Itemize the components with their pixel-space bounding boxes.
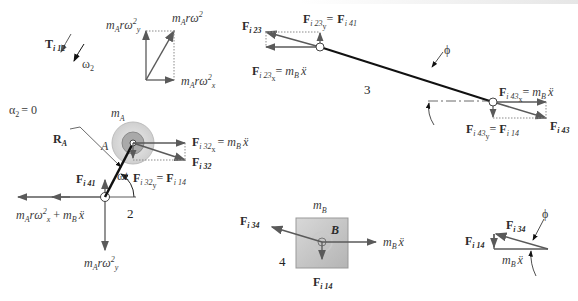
F-i32x-eq-mBx-label: Fi 32x=mBẍ xyxy=(192,135,249,154)
mArw2-arrow xyxy=(146,31,174,80)
F-i14-label: Fi 14 xyxy=(313,275,333,291)
force-i23-arrow xyxy=(266,32,320,47)
mass-B-label: mB xyxy=(313,198,327,215)
polygon-phi-arc xyxy=(531,251,536,276)
mass-A-label: mA xyxy=(111,106,125,123)
R-A-label: RA xyxy=(53,132,68,148)
polygon-mBx-label: mBẍ xyxy=(502,253,524,269)
link-4-number: 4 xyxy=(279,254,286,269)
phi-leader-arrow xyxy=(432,52,443,67)
mArw2-inset-label: mArω2 xyxy=(172,10,203,27)
polygon-F-i14-label: Fi 14 xyxy=(465,234,485,250)
phi-label: ϕ xyxy=(444,43,450,57)
torque-label: Ti 12 xyxy=(45,37,65,53)
mArw2y-label: mArω2y xyxy=(84,255,119,272)
F-i32y-eq-F-i14-label: Fi 32y=Fi 14 xyxy=(133,171,186,190)
pin-A-coupler xyxy=(316,43,324,51)
F-i23x-eq-mBx-label: Fi 23x=mBẍ xyxy=(252,64,307,83)
F-i23-label: Fi 23 xyxy=(242,19,262,35)
phi-angle-arc xyxy=(429,103,434,125)
point-A-label: A xyxy=(100,139,109,153)
F-i43y-eq-F-i14-label: Fi 43y=Fi 14 xyxy=(466,122,519,141)
alpha2-label: α2= 0 xyxy=(9,103,37,119)
F-i43-label: Fi 43 xyxy=(550,119,570,135)
polygon-F-i34-label: Fi 34 xyxy=(506,218,526,234)
force-i43-arrow xyxy=(493,102,546,118)
polygon-F-i34-side xyxy=(496,234,548,249)
omega-t-label: ωt xyxy=(117,169,129,183)
polygon-phi-leader xyxy=(533,219,544,240)
mechanism-diagram: Ti 12 ω2 α2= 0 mA A RA Fi 41 ωt Fi 32y=F… xyxy=(0,0,578,301)
F-i34-label: Fi 34 xyxy=(240,214,260,230)
link-4-slider xyxy=(272,218,376,268)
F-i23y-eq-F-i41-label: Fi 23y=Fi 41 xyxy=(303,12,357,31)
F-i32-label: Fi 32 xyxy=(192,155,212,171)
point-B-label: B xyxy=(330,223,339,237)
omega2-label: ω2 xyxy=(82,57,94,73)
pin-B-coupler xyxy=(489,98,497,106)
F-i41-label: Fi 41 xyxy=(76,172,96,188)
link-2-number: 2 xyxy=(127,206,134,221)
F-i43x-eq-mBx-label: Fi 43x=mBẍ xyxy=(499,85,554,104)
link-3-coupler xyxy=(266,32,546,125)
link-3-number: 3 xyxy=(364,82,371,97)
mBx-slider-label: mBẍ xyxy=(383,235,405,251)
mArw2x-plus-mBx-label: mArω2x+mBẍ xyxy=(16,207,85,224)
mArw2x-inset-label: mArω2x xyxy=(181,73,216,90)
coupler-link xyxy=(320,47,493,102)
mArw2y-inset-label: mArω2y xyxy=(106,17,141,34)
polygon-phi-label: ϕ xyxy=(542,207,548,221)
